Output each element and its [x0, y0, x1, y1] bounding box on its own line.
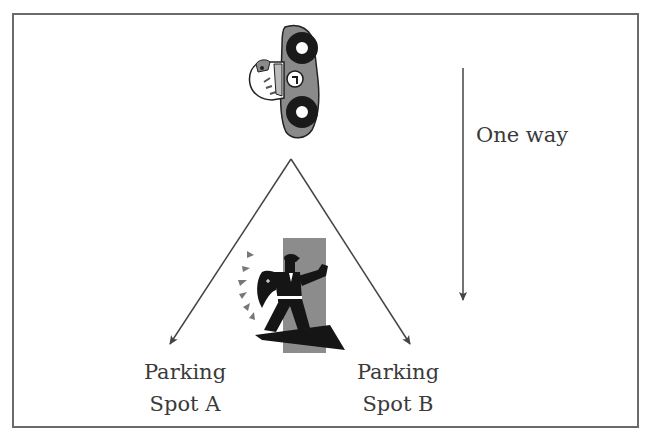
- diagram-canvas: [0, 0, 649, 437]
- traffic-officer-icon: [238, 238, 345, 353]
- parking-spot-b-line2: Spot B: [333, 391, 463, 417]
- parking-spot-a-line2: Spot A: [120, 391, 250, 417]
- parking-spot-a-line1: Parking: [120, 359, 250, 385]
- parking-spot-b-line1: Parking: [333, 359, 463, 385]
- parking-spot-a-label: Parking Spot A: [120, 359, 250, 417]
- parking-spot-b-label: Parking Spot B: [333, 359, 463, 417]
- race-car-icon: [250, 26, 319, 138]
- one-way-label: One way: [476, 122, 586, 148]
